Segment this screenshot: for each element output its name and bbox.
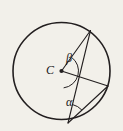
geometry-canvas xyxy=(0,0,123,131)
circle-center-dot xyxy=(59,69,63,73)
angle-label-beta: β xyxy=(66,52,72,64)
angle-label-alpha: α xyxy=(66,96,72,108)
center-label-c: C xyxy=(46,64,54,76)
figure-background xyxy=(0,0,123,131)
circle-geometry-figure: C β α xyxy=(0,0,123,131)
